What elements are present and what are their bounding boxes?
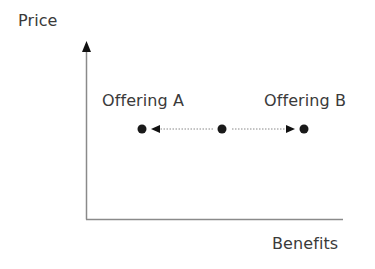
offering-a-point <box>138 125 147 134</box>
offering-a-label: Offering A <box>102 93 184 109</box>
offering-b-label: Offering B <box>264 93 346 109</box>
y-axis-arrowhead-icon <box>82 41 91 52</box>
y-axis-label: Price <box>18 13 58 29</box>
arrowhead-left-icon <box>151 125 160 133</box>
x-axis-label: Benefits <box>272 236 338 252</box>
offering-b-point <box>300 125 309 134</box>
diagram-canvas <box>0 0 375 269</box>
center-point <box>218 125 227 134</box>
arrowhead-right-icon <box>286 125 295 133</box>
